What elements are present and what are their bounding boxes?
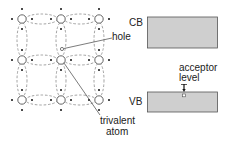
- hole-leader: [64, 38, 112, 49]
- vb-label: VB: [129, 96, 142, 107]
- trivalent-label-line1: trivalent: [100, 115, 135, 126]
- acceptor-label-line2: level: [179, 72, 200, 83]
- hole-label: hole: [112, 31, 131, 42]
- hole-marker: [60, 47, 63, 50]
- trivalent-label-line2: atom: [106, 126, 128, 137]
- cb-label: CB: [129, 17, 143, 28]
- conduction-band: [148, 17, 218, 48]
- trivalent-atom: [57, 56, 65, 64]
